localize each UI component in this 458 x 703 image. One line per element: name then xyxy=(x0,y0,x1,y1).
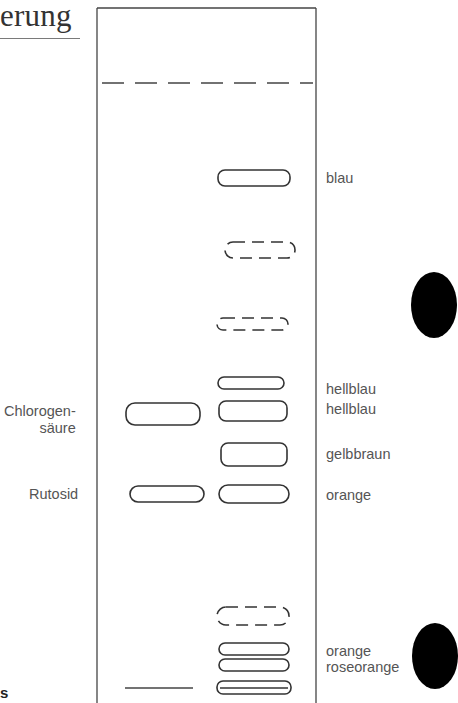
zone-label-orange-1: orange xyxy=(326,487,371,504)
label-chlorogensaeure: Chlorogen- säure xyxy=(4,403,76,437)
zone-label-gelbbraun: gelbbraun xyxy=(326,446,391,463)
footnote-fragment: s xyxy=(0,684,8,701)
sample-lane xyxy=(217,170,295,694)
zone-label-orange-2: orange xyxy=(326,643,371,660)
label-rutosid: Rutosid xyxy=(29,486,78,503)
spot-rutosid xyxy=(130,486,204,502)
thumb-index-tab-upper xyxy=(411,272,457,338)
spot-dashed-1 xyxy=(225,242,295,258)
zone-label-hellblau-1: hellblau xyxy=(326,381,376,398)
thumb-index-tab-lower xyxy=(412,623,458,689)
spot-hellblau-1 xyxy=(218,377,284,389)
spot-orange-2 xyxy=(219,643,289,655)
spot-orange-1 xyxy=(219,485,289,503)
reference-lane xyxy=(126,403,204,502)
plate-outline xyxy=(97,8,316,703)
spot-dashed-3 xyxy=(217,607,289,625)
zone-label-roseorange: roseorange xyxy=(326,659,399,676)
zone-label-hellblau-2: hellblau xyxy=(326,401,376,418)
zone-label-blau: blau xyxy=(326,170,353,187)
spot-chlorogensaeure xyxy=(126,403,200,425)
spot-blau xyxy=(218,170,290,186)
spot-hellblau-2 xyxy=(219,401,287,421)
spot-dashed-2 xyxy=(217,318,288,330)
spot-roseorange xyxy=(219,659,289,671)
spot-gelbbraun xyxy=(221,443,287,466)
